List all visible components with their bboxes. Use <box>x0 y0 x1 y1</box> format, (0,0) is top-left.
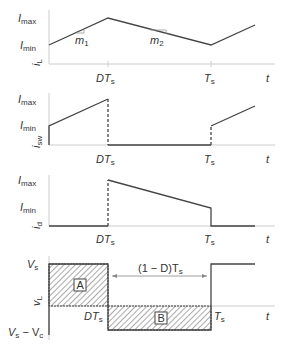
xlabel-ts: Ts <box>204 233 215 247</box>
ylabel-il: iL <box>30 59 44 66</box>
imin-label: Imin <box>20 119 36 133</box>
xlabel-dts: DTs <box>96 72 115 86</box>
xlabel-ts: Ts <box>204 153 215 167</box>
panel-diode-current: Imax Imin id DTs Ts t <box>18 174 275 247</box>
imin-label: Imin <box>20 39 36 53</box>
isw-waveform-on <box>49 99 108 145</box>
xlabel-dts: DTs <box>96 153 115 167</box>
ylabel-isw: isw <box>30 136 44 148</box>
area-a-label: A <box>77 279 85 291</box>
xlabel-ts: Ts <box>214 310 225 324</box>
ylabel-vl: vL <box>30 296 44 307</box>
xlabel-t: t <box>266 233 270 245</box>
vs-label: Vs <box>27 258 38 272</box>
ylabel-id: id <box>30 222 44 229</box>
interval-label: (1 − D)Ts <box>138 262 183 276</box>
xlabel-ts: Ts <box>204 72 215 86</box>
imax-label: Imax <box>18 12 36 26</box>
xlabel-dts: DTs <box>84 310 103 324</box>
slope-label-m1: m1 <box>75 34 89 48</box>
xlabel-t: t <box>266 72 270 84</box>
imax-label: Imax <box>18 93 36 107</box>
xlabel-t: t <box>266 310 270 322</box>
area-b-label: B <box>158 312 165 324</box>
imax-label: Imax <box>18 174 36 188</box>
panel-switch-current: Imax Imin isw DTs Ts t <box>18 93 275 167</box>
vs-minus-vc-label: Vs − Vc <box>8 326 43 340</box>
panel-inductor-current: Imax Imin iL m1 m2 DTs Ts t <box>18 10 275 86</box>
id-waveform <box>108 180 255 226</box>
xlabel-dts: DTs <box>96 233 115 247</box>
slope-label-m2: m2 <box>150 34 164 48</box>
xlabel-t: t <box>266 153 270 165</box>
imin-label: Imin <box>20 201 36 215</box>
converter-waveforms-diagram: Imax Imin iL m1 m2 DTs Ts t Imax Imin is… <box>0 0 287 355</box>
panel-inductor-voltage: A B (1 − D)Ts Vs Vs − Vc vL DTs Ts t <box>8 256 275 340</box>
